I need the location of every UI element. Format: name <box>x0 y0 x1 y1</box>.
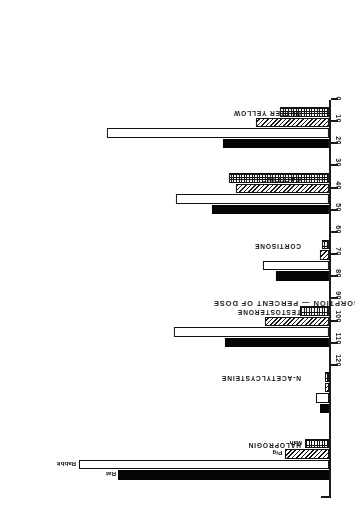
group-label-testosterone: TESTOSTERONE <box>237 309 301 316</box>
axis-tick-label: 80 <box>336 254 343 278</box>
bar-group: N-ACETYLCYSTEINE <box>54 365 329 431</box>
group-label-cortisone: CORTISONE <box>254 243 301 250</box>
axis-tick-label: 120 <box>336 342 343 366</box>
axis-tick-label: 70 <box>336 232 343 256</box>
bar-man-n-acetylcysteine <box>325 372 329 382</box>
bar-rat-haloprogin <box>118 470 329 480</box>
bar-man-haloprogin <box>305 439 329 449</box>
species-label-pig: Pig <box>273 450 283 457</box>
bar-group: CAFFEINE <box>54 166 329 232</box>
axis-tick-label: 60 <box>336 209 343 233</box>
group-label-caffeine: CAFFEINE <box>261 176 301 183</box>
chart-plot-area: 0102030405060708090100110120 TOTAL ABSOR… <box>54 100 331 498</box>
species-label-rat: Rat <box>106 471 116 478</box>
bar-rabbit-haloprogin <box>79 460 329 470</box>
bar-rabbit-n-acetylcysteine <box>316 393 329 403</box>
bar-group: CORTISONE <box>54 233 329 299</box>
axis-tick-label: 30 <box>336 143 343 167</box>
figure-canvas: 0102030405060708090100110120 TOTAL ABSOR… <box>0 0 355 520</box>
group-label-butter-yellow: BUTTER YELLOW <box>233 110 301 117</box>
bar-pig-cortisone <box>320 250 329 260</box>
bar-man-cortisone <box>322 240 329 250</box>
species-label-rabbit: Rabbit <box>57 461 76 468</box>
axis-tick-label: 0 <box>336 77 343 101</box>
axis-tick-label: 90 <box>336 276 343 300</box>
bar-pig-caffeine <box>236 184 329 194</box>
bar-man-testosterone <box>300 306 329 316</box>
group-label-n-acetylcysteine: N-ACETYLCYSTEINE <box>221 375 301 382</box>
bar-rabbit-cortisone <box>263 261 329 271</box>
bar-rabbit-caffeine <box>176 194 329 204</box>
bar-rat-butter-yellow <box>223 139 329 149</box>
axis-tick-label: 20 <box>336 121 343 145</box>
bar-rabbit-butter-yellow <box>107 128 329 138</box>
bar-rat-caffeine <box>212 205 329 215</box>
axis-tick-label: 110 <box>336 320 343 344</box>
axis-tick-label: 40 <box>336 165 343 189</box>
bar-pig-n-acetylcysteine <box>325 383 329 393</box>
bar-pig-butter-yellow <box>256 118 329 128</box>
bar-group: TESTOSTERONE <box>54 299 329 365</box>
group-label-haloprogin: HALOPROGIN <box>248 442 301 449</box>
bar-rat-n-acetylcysteine <box>320 404 329 414</box>
axis-tick-label: 50 <box>336 187 343 211</box>
bar-pig-haloprogin <box>285 449 329 459</box>
axis-tick-label: 10 <box>336 99 343 123</box>
bar-group: BUTTER YELLOW <box>54 100 329 166</box>
bar-group: RatRabbitPigManHALOPROGIN <box>54 432 329 498</box>
bar-pig-testosterone <box>265 317 329 327</box>
bar-rat-testosterone <box>225 338 329 348</box>
bar-rabbit-testosterone <box>174 327 329 337</box>
bar-rat-cortisone <box>276 271 329 281</box>
